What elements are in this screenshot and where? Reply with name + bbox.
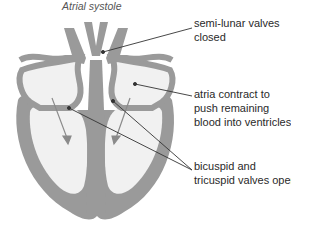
label-atria-contract: atria contract to push remaining blood i… [194, 87, 291, 129]
label-line: bicuspid and [194, 159, 291, 173]
label-line: semi-lunar valves [194, 16, 280, 30]
label-av-valves-open: bicuspid and tricuspid valves open [194, 159, 291, 187]
label-line: closed [194, 30, 280, 44]
label-semilunar-valves: semi-lunar valves closed [194, 16, 280, 44]
label-line: tricuspid valves open [194, 173, 291, 187]
vessel-branch-right [114, 57, 172, 60]
vessel-branch-left [20, 57, 78, 60]
label-line: atria contract to [194, 87, 291, 101]
right-atrium-chamber [111, 58, 172, 108]
label-line: blood into ventricles [194, 115, 291, 129]
septum [86, 60, 106, 214]
label-line: push remaining [194, 101, 291, 115]
left-atrium-chamber [20, 58, 81, 108]
